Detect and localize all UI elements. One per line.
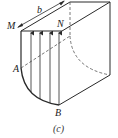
diagram-canvas: M N A B b (c) — [0, 0, 118, 138]
bottom-edge — [59, 75, 110, 105]
label-m: M — [6, 20, 16, 31]
label-n: N — [56, 18, 65, 29]
label-b: B — [55, 107, 61, 118]
figure-caption: (c) — [53, 123, 65, 135]
pressure-arrows — [31, 33, 59, 105]
hidden-lines — [21, 2, 110, 75]
top-face — [21, 2, 110, 31]
label-a: A — [12, 63, 20, 74]
label-dim-b: b — [37, 4, 42, 15]
